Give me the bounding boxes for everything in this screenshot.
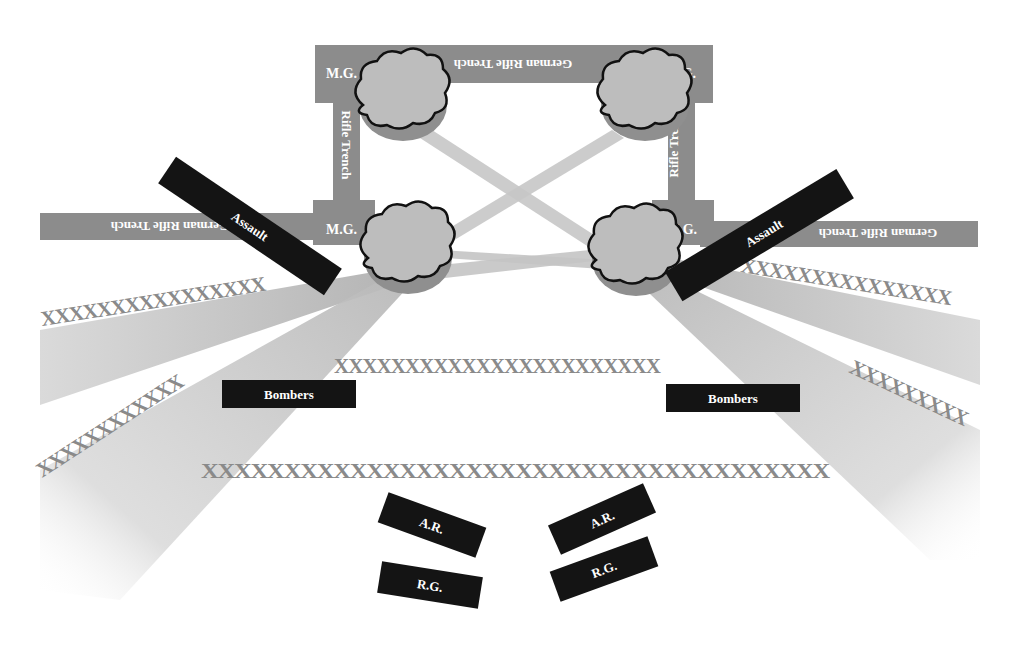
unit-bombers-left: Bombers (222, 380, 356, 408)
cloud-icon (597, 48, 691, 141)
cloud-icon (588, 203, 682, 296)
wire-center-lower: XXXXXXXXXXXXXXXXXXXXXXXXXXXXXXXXXXXXXX (201, 459, 830, 483)
cloud-icon (360, 201, 454, 294)
trench-network: German Rifle Trench Rifle Trench Rifle T… (40, 45, 978, 247)
trench-left-side-label: Rifle Trench (339, 111, 354, 181)
trench-diagram: German Rifle Trench Rifle Trench Rifle T… (0, 0, 1027, 650)
unit-ar-left: A.R. (378, 492, 487, 558)
wire-center-upper: XXXXXXXXXXXXXXXXXXXXXXX (334, 354, 661, 378)
mg-label-top-left: M.G. (326, 66, 357, 81)
mg-label-bottom-left: M.G. (326, 222, 357, 237)
trench-top-label: German Rifle Trench (453, 57, 572, 72)
trench-right-flank-label: German Rifle Trench (818, 226, 937, 241)
unit-rg-left: R.G. (377, 561, 483, 609)
trench-left-flank-label: German Rifle Trench (110, 219, 229, 234)
unit-bombers-left-label: Bombers (264, 387, 314, 402)
unit-bombers-right-label: Bombers (708, 391, 758, 406)
cloud-icon (355, 48, 449, 141)
unit-bombers-right: Bombers (666, 384, 800, 412)
